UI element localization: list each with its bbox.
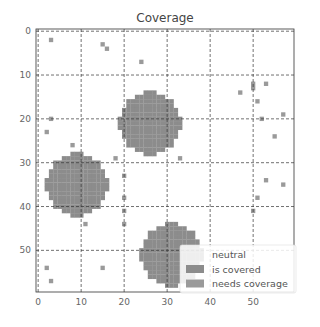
covered-cell: [156, 279, 161, 284]
covered-cell: [66, 191, 71, 196]
covered-cell: [148, 270, 153, 275]
covered-cell: [169, 244, 174, 249]
covered-cell: [174, 112, 179, 117]
covered-cell: [96, 200, 101, 205]
covered-cell: [83, 191, 88, 196]
needs-coverage-cell: [49, 279, 53, 283]
covered-cell: [70, 182, 75, 187]
covered-cell: [148, 244, 153, 249]
covered-cell: [174, 235, 179, 240]
covered-cell: [88, 187, 93, 192]
legend-label: is covered: [212, 264, 261, 275]
covered-cell: [131, 121, 136, 126]
needs-coverage-cell: [264, 178, 268, 182]
covered-cell: [62, 200, 67, 205]
covered-cell: [156, 257, 161, 262]
covered-cell: [182, 235, 187, 240]
legend-swatch: [186, 280, 204, 288]
covered-cell: [83, 196, 88, 201]
covered-cell: [70, 187, 75, 192]
covered-cell: [101, 182, 106, 187]
covered-cell: [45, 182, 50, 187]
covered-cell: [75, 209, 80, 214]
y-tick-label: 50: [20, 245, 32, 255]
covered-cell: [96, 169, 101, 174]
needs-coverage-cell: [45, 266, 49, 270]
covered-cell: [88, 169, 93, 174]
covered-cell: [174, 134, 179, 139]
covered-cell: [144, 266, 149, 271]
x-tick-label: 0: [35, 297, 41, 307]
covered-cell: [178, 239, 183, 244]
covered-cell: [178, 231, 183, 236]
covered-cell: [131, 108, 136, 113]
covered-cell: [92, 174, 97, 179]
covered-cell: [96, 191, 101, 196]
covered-cell: [152, 270, 157, 275]
covered-cell: [161, 266, 166, 271]
covered-cell: [144, 95, 149, 100]
covered-cell: [139, 121, 144, 126]
covered-cell: [88, 200, 93, 205]
covered-cell: [169, 112, 174, 117]
covered-cell: [53, 165, 58, 170]
covered-cell: [92, 187, 97, 192]
covered-cell: [144, 99, 149, 104]
covered-cell: [156, 95, 161, 100]
covered-cell: [178, 226, 183, 231]
covered-cell: [156, 235, 161, 240]
covered-cell: [53, 169, 58, 174]
covered-cell: [169, 279, 174, 284]
covered-cell: [148, 257, 153, 262]
needs-coverage-cell: [281, 112, 285, 116]
legend-label: neutral: [212, 249, 246, 260]
covered-cell: [148, 235, 153, 240]
covered-cell: [187, 239, 192, 244]
covered-cell: [75, 165, 80, 170]
y-tick-label: 20: [20, 114, 32, 124]
covered-cell: [152, 112, 157, 117]
covered-cell: [152, 108, 157, 113]
covered-cell: [126, 104, 131, 109]
covered-cell: [161, 112, 166, 117]
covered-cell: [148, 152, 153, 157]
covered-cell: [101, 174, 106, 179]
covered-cell: [139, 143, 144, 148]
covered-cell: [88, 165, 93, 170]
covered-cell: [144, 143, 149, 148]
covered-cell: [75, 152, 80, 157]
covered-cell: [156, 143, 161, 148]
covered-cell: [75, 196, 80, 201]
covered-cell: [66, 182, 71, 187]
covered-cell: [62, 169, 67, 174]
covered-cell: [174, 222, 179, 227]
covered-cell: [139, 99, 144, 104]
covered-cell: [169, 257, 174, 262]
covered-cell: [135, 130, 140, 135]
covered-cell: [49, 169, 54, 174]
covered-cell: [169, 274, 174, 279]
needs-coverage-cell: [139, 60, 143, 64]
covered-cell: [92, 196, 97, 201]
covered-cell: [53, 178, 58, 183]
covered-cell: [152, 261, 157, 266]
needs-coverage-cell: [83, 222, 87, 226]
covered-cell: [83, 200, 88, 205]
covered-cell: [169, 143, 174, 148]
covered-cell: [96, 174, 101, 179]
covered-cell: [139, 139, 144, 144]
covered-cell: [88, 174, 93, 179]
covered-cell: [66, 169, 71, 174]
covered-cell: [131, 130, 136, 135]
covered-cell: [148, 90, 153, 95]
covered-cell: [156, 108, 161, 113]
covered-cell: [135, 104, 140, 109]
covered-cell: [139, 253, 144, 258]
covered-cell: [135, 143, 140, 148]
covered-cell: [148, 108, 153, 113]
covered-cell: [70, 174, 75, 179]
covered-cell: [58, 187, 63, 192]
covered-cell: [152, 130, 157, 135]
covered-cell: [135, 147, 140, 152]
covered-cell: [92, 200, 97, 205]
